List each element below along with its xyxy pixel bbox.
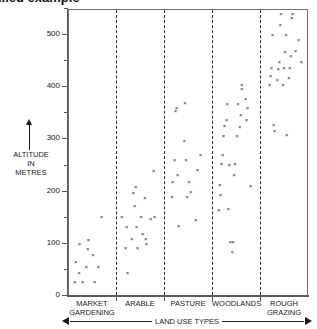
x-axis-caption-group: LAND USE TYPES <box>62 316 312 328</box>
data-point <box>72 280 77 285</box>
data-point <box>238 113 243 118</box>
data-point <box>174 106 179 111</box>
data-point <box>227 163 232 168</box>
data-point <box>288 54 293 59</box>
data-point <box>132 204 137 209</box>
y-axis-caption-line-1: ALTITUDE <box>2 150 60 159</box>
data-point <box>281 83 286 88</box>
data-point <box>233 162 238 167</box>
data-point <box>176 224 181 229</box>
data-point <box>239 87 244 92</box>
data-point <box>131 191 136 196</box>
chart-title-cropped: ...ed example <box>0 0 160 8</box>
data-point <box>172 158 177 163</box>
data-point <box>277 60 282 65</box>
y-tick-label: 400 <box>4 82 60 90</box>
x-category-label-rough-grazing: ROUGHGRAZING <box>260 299 308 317</box>
x-category-label-market-gardening: MARKETGARDENING <box>68 299 116 317</box>
data-point <box>193 218 198 223</box>
data-point <box>269 66 274 71</box>
data-point <box>220 153 225 158</box>
y-axis-caption: ALTITUDE IN METRES <box>2 150 60 177</box>
data-point <box>282 66 287 71</box>
page-title: ...ed example <box>0 0 80 5</box>
data-point <box>289 16 294 21</box>
data-point <box>284 133 289 138</box>
data-point <box>216 208 221 213</box>
y-axis-arrow-icon <box>29 124 30 150</box>
x-category-label-line: WOODLANDS <box>212 299 260 308</box>
data-point <box>226 207 231 212</box>
data-point <box>96 265 101 270</box>
data-point <box>144 242 149 247</box>
data-point <box>217 183 222 188</box>
x-axis-line <box>67 295 309 297</box>
data-point <box>198 153 203 158</box>
data-point <box>77 242 82 247</box>
data-point <box>282 50 287 55</box>
data-point <box>231 240 236 245</box>
y-tick-label: 200 <box>4 187 60 195</box>
data-point <box>278 23 283 28</box>
scatter-chart-page: ...ed example 0100200300400500 ALTITUDE … <box>0 0 317 329</box>
data-point <box>244 118 249 123</box>
y-tick-label: 500 <box>4 30 60 38</box>
data-point <box>219 162 224 167</box>
x-category-label-woodlands: WOODLANDS <box>212 299 260 308</box>
data-point <box>138 215 143 220</box>
data-point <box>224 118 229 123</box>
x-category-label-line: ARABLE <box>116 299 164 308</box>
data-point <box>188 190 193 195</box>
data-point <box>175 173 180 178</box>
data-point <box>290 12 295 17</box>
data-point <box>218 193 223 198</box>
data-point <box>119 215 124 220</box>
category-divider <box>260 10 261 295</box>
x-category-label-line: ROUGH <box>260 299 308 308</box>
data-point <box>225 102 230 107</box>
x-category-label-line: MARKET <box>68 299 116 308</box>
y-tick-label: 100 <box>4 239 60 247</box>
data-point <box>272 129 277 134</box>
data-point <box>185 195 190 200</box>
data-point <box>232 173 237 178</box>
data-point <box>195 168 200 173</box>
data-point <box>92 280 97 285</box>
data-point <box>283 33 288 38</box>
data-point <box>135 246 140 251</box>
data-point <box>86 238 91 243</box>
y-tick-label: 0 <box>4 291 60 299</box>
data-point <box>124 225 129 230</box>
data-point <box>125 271 130 276</box>
data-point <box>90 253 95 258</box>
data-point <box>245 106 250 111</box>
data-point <box>267 83 272 88</box>
data-point <box>151 169 156 174</box>
data-point <box>243 97 248 102</box>
category-divider <box>212 10 213 295</box>
data-point <box>279 12 284 17</box>
data-point <box>142 196 147 201</box>
x-category-label-line: PASTURE <box>164 299 212 308</box>
data-point <box>299 60 304 65</box>
data-point <box>286 76 291 81</box>
data-point <box>221 134 226 139</box>
category-divider <box>116 10 117 295</box>
x-category-label-pasture: PASTURE <box>164 299 212 308</box>
data-point <box>287 66 292 71</box>
data-point <box>84 265 89 270</box>
data-point <box>123 246 128 251</box>
y-axis-caption-line-2: IN <box>2 159 60 168</box>
data-point <box>133 185 138 190</box>
data-point <box>235 102 240 107</box>
data-point <box>293 49 298 54</box>
data-point <box>234 134 239 139</box>
data-point <box>296 38 301 43</box>
data-point <box>77 271 82 276</box>
data-point <box>169 195 174 200</box>
data-point <box>237 125 242 130</box>
data-point <box>275 78 280 83</box>
x-axis-caption: LAND USE TYPES <box>62 316 312 327</box>
data-point <box>270 33 275 38</box>
data-point <box>129 237 134 242</box>
